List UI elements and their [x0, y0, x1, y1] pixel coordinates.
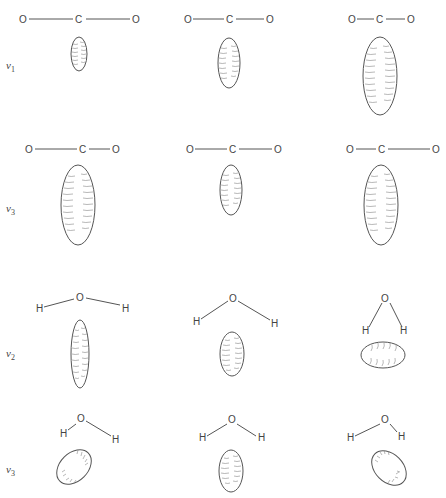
polarizability-ellipsoid — [61, 165, 95, 245]
atom-O: O — [132, 14, 140, 25]
co2-nu1-panel-2: O C O — [184, 14, 274, 88]
atom-H: H — [122, 303, 129, 314]
co2-nu1-panel-3: O C O — [348, 14, 415, 115]
atom-H: H — [400, 325, 407, 336]
polarizability-ellipsoid — [365, 444, 413, 492]
atom-O: O — [19, 14, 27, 25]
atom-O: O — [77, 413, 85, 424]
atom-H: H — [258, 432, 265, 443]
polarizability-ellipsoid — [71, 320, 89, 388]
atom-H: H — [112, 434, 119, 445]
h2o-nu3-panel-2: H O H — [199, 414, 265, 492]
h2o-nu2-panel-2: H O H — [193, 293, 278, 376]
polarizability-ellipsoid — [220, 332, 244, 376]
co2-nu3-panel-1: O C O — [25, 144, 120, 245]
polarizability-ellipsoid — [361, 342, 405, 368]
atom-O: O — [25, 144, 33, 155]
atom-O: O — [112, 144, 120, 155]
atom-H: H — [362, 325, 369, 336]
polarizability-ellipsoid — [50, 443, 98, 491]
atom-O: O — [229, 293, 237, 304]
atom-H: H — [199, 432, 206, 443]
atom-H: H — [271, 318, 278, 329]
atom-O: O — [184, 14, 192, 25]
atom-O: O — [381, 414, 389, 425]
polarizability-ellipsoid — [219, 450, 243, 492]
atom-C: C — [378, 144, 385, 155]
atom-H: H — [193, 316, 200, 327]
h2o-nu3-panel-1: H O H — [50, 413, 119, 491]
atom-O: O — [348, 14, 356, 25]
co2-nu1-panel-1: O C O — [19, 14, 140, 71]
atom-O: O — [407, 14, 415, 25]
atom-C: C — [229, 144, 236, 155]
atom-O: O — [186, 144, 194, 155]
polarizability-ellipsoid — [220, 165, 242, 215]
polarizability-ellipsoid — [218, 38, 240, 88]
co2-nu3-panel-2: O C O — [186, 144, 282, 215]
atom-O: O — [381, 293, 389, 304]
atom-C: C — [75, 14, 82, 25]
atom-C: C — [226, 14, 233, 25]
atom-O: O — [266, 14, 274, 25]
h2o-nu2-panel-3: H O H — [361, 293, 407, 368]
atom-H: H — [347, 432, 354, 443]
h2o-nu2-panel-1: H O H — [36, 292, 129, 388]
polarizability-ellipsoid — [364, 165, 398, 245]
atom-O: O — [346, 144, 354, 155]
h2o-nu3-panel-3: H O H — [347, 414, 413, 492]
vibration-polarizability-diagram: O C O O C O O C O O C — [0, 0, 446, 498]
atom-O: O — [76, 292, 84, 303]
atom-O: O — [432, 144, 440, 155]
polarizability-ellipsoid — [363, 37, 397, 115]
atom-O: O — [274, 144, 282, 155]
atom-O: O — [228, 414, 236, 425]
atom-C: C — [79, 144, 86, 155]
co2-nu3-panel-3: O C O — [346, 144, 440, 245]
atom-C: C — [376, 14, 383, 25]
polarizability-ellipsoid — [71, 37, 87, 71]
atom-H: H — [36, 303, 43, 314]
atom-H: H — [60, 428, 67, 439]
atom-H: H — [398, 431, 405, 442]
